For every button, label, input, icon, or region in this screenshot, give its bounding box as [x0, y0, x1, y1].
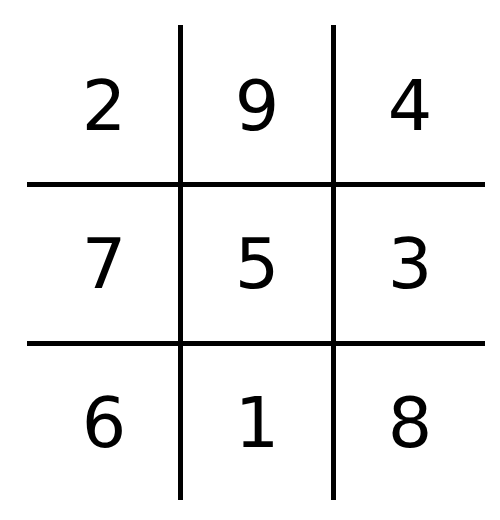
cell-r2-c1: 7: [30, 187, 178, 341]
cell-r2-c3: 3: [336, 187, 484, 341]
cell-r3-c3: 8: [336, 346, 484, 500]
cell-r2-c2: 5: [183, 187, 331, 341]
cell-r3-c2: 1: [183, 346, 331, 500]
cell-r3-c1: 6: [30, 346, 178, 500]
cell-r1-c1: 2: [30, 30, 178, 182]
cell-r1-c2: 9: [183, 30, 331, 182]
cell-r1-c3: 4: [336, 30, 484, 182]
